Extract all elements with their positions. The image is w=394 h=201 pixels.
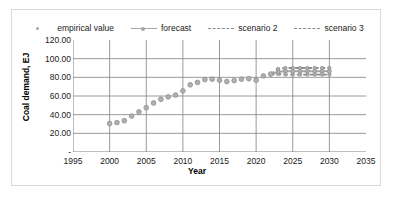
data-point — [202, 77, 207, 82]
chart-canvas — [73, 40, 366, 152]
data-point — [232, 78, 237, 83]
data-point — [217, 78, 222, 83]
legend-item-forecast: forecast — [131, 23, 191, 33]
x-tick-label: 2025 — [283, 156, 302, 166]
data-point — [320, 69, 324, 73]
chart-container: empirical value forecast scenario 2 scen… — [11, 9, 381, 186]
x-tick-label: 2030 — [320, 156, 339, 166]
data-point — [224, 79, 229, 84]
y-tick-label: 20.00 — [25, 128, 71, 138]
data-point — [261, 74, 266, 79]
x-axis-title: Year — [12, 166, 382, 176]
x-tick-label: 2005 — [137, 156, 156, 166]
data-point — [313, 69, 317, 73]
data-point — [129, 114, 134, 119]
data-point — [291, 69, 295, 73]
dashed-line-icon — [294, 28, 320, 29]
data-point — [173, 93, 178, 98]
data-point — [144, 105, 149, 110]
data-point — [254, 78, 259, 83]
x-tick-label: 2000 — [100, 156, 119, 166]
data-point — [298, 69, 302, 73]
data-point — [239, 77, 244, 82]
legend-label: scenario 2 — [238, 23, 277, 33]
legend-item-scenario-2: scenario 2 — [208, 23, 277, 33]
data-point — [268, 72, 273, 77]
legend-item-scenario-3: scenario 3 — [294, 23, 363, 33]
data-point — [195, 80, 200, 85]
x-tick-label: 2015 — [210, 156, 229, 166]
data-point — [305, 69, 309, 73]
data-point — [137, 109, 142, 114]
x-tick-label: 1995 — [64, 156, 83, 166]
dashed-line-icon — [208, 28, 234, 29]
data-point — [327, 69, 331, 73]
data-point — [276, 70, 280, 74]
data-point — [122, 118, 127, 123]
y-tick-label: 100.00 — [25, 54, 71, 64]
data-point — [188, 82, 193, 87]
legend-label: forecast — [161, 23, 191, 33]
y-tick-label: 40.00 — [25, 110, 71, 120]
data-point — [115, 120, 120, 125]
data-point — [283, 69, 287, 73]
data-point — [166, 95, 171, 100]
y-tick-label: 120.00 — [25, 35, 71, 45]
data-point — [246, 76, 251, 81]
line-marker-icon — [131, 28, 157, 29]
x-tick-label: 2020 — [247, 156, 266, 166]
data-point — [107, 121, 112, 126]
data-point — [210, 77, 215, 82]
data-point — [180, 88, 185, 93]
data-point — [151, 101, 156, 106]
x-tick-label: 2010 — [173, 156, 192, 166]
circle-marker-icon — [141, 27, 145, 31]
data-point — [159, 97, 164, 102]
y-tick-label: 80.00 — [25, 72, 71, 82]
x-tick-label: 2035 — [357, 156, 376, 166]
plot-area — [73, 40, 366, 152]
y-tick-label: 60.00 — [25, 91, 71, 101]
legend-label: scenario 3 — [324, 23, 363, 33]
